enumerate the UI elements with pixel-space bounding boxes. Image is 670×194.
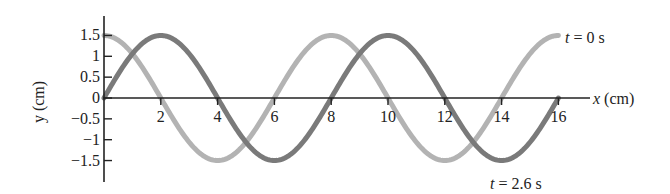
x-tick-label: 4 [214,108,222,125]
x-ticks: 246810121416 [157,98,567,125]
x-tick-label: 8 [327,108,335,125]
y-tick-label: −1.5 [71,152,100,169]
legend-t2-6: t = 2.6 s [490,175,542,192]
x-tick-label: 16 [550,108,566,125]
y-axis-label: y (cm) [30,81,48,123]
y-tick-label: −0.5 [71,110,100,127]
legend-t0: t = 0 s [565,29,605,46]
x-tick-label: 2 [157,108,165,125]
wave-chart: 246810121416 1.510.50−0.5−1−1.5 x (cm) y… [0,0,670,194]
x-axis-label: x (cm) [592,90,634,108]
y-tick-label: 1.5 [80,26,100,43]
y-tick-label: −1 [83,131,100,148]
x-tick-label: 12 [437,108,453,125]
y-tick-label: 0.5 [80,68,100,85]
y-tick-label: 1 [92,47,100,64]
y-tick-label: 0 [92,89,100,106]
x-tick-label: 6 [270,108,278,125]
x-tick-label: 14 [494,108,510,125]
y-ticks: 1.510.50−0.5−1−1.5 [71,26,112,168]
x-tick-label: 10 [380,108,396,125]
